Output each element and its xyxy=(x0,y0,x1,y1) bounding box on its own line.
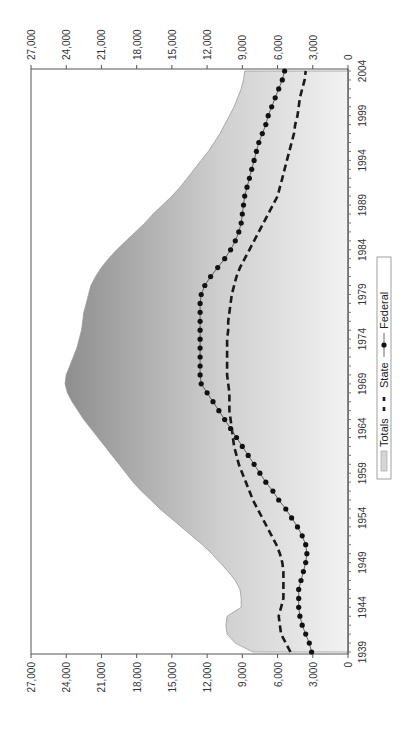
federal-marker xyxy=(273,95,278,100)
federal-marker xyxy=(240,444,245,449)
legend-totals-swatch xyxy=(381,451,387,471)
rotated-chart: 03,0006,0009,00012,00015,00018,00021,000… xyxy=(0,0,416,739)
federal-marker xyxy=(198,337,203,342)
value-tick-label-bottom: 3,000 xyxy=(308,662,319,687)
value-tick-label-bottom: 27,000 xyxy=(26,662,37,693)
federal-marker xyxy=(270,489,275,494)
value-tick-label-bottom: 0 xyxy=(343,662,354,668)
federal-marker xyxy=(300,533,305,538)
federal-marker xyxy=(249,167,254,172)
federal-marker xyxy=(199,292,204,297)
value-tick-label-top: 12,000 xyxy=(202,29,213,60)
federal-marker xyxy=(303,560,308,565)
federal-marker xyxy=(307,641,312,646)
federal-marker xyxy=(240,211,245,216)
federal-marker xyxy=(254,149,259,154)
year-tick-label: 1984 xyxy=(357,238,368,261)
year-axis: 1939194419491954195919641969197419791984… xyxy=(348,59,368,663)
federal-marker xyxy=(301,569,306,574)
federal-marker xyxy=(216,408,221,413)
federal-marker xyxy=(304,551,309,556)
value-tick-label-bottom: 6,000 xyxy=(273,662,284,687)
federal-marker xyxy=(233,238,238,243)
federal-marker xyxy=(198,301,203,306)
federal-marker xyxy=(241,203,246,208)
value-tick-label-top: 9,000 xyxy=(237,35,248,60)
year-tick-label: 1954 xyxy=(357,506,368,529)
value-tick-label-top: 3,000 xyxy=(308,35,319,60)
federal-marker xyxy=(263,122,268,127)
year-tick-label: 1964 xyxy=(357,417,368,440)
federal-marker xyxy=(280,77,285,82)
year-tick-label: 1994 xyxy=(357,149,368,172)
federal-marker xyxy=(198,372,203,377)
federal-marker xyxy=(266,113,271,118)
federal-marker xyxy=(252,462,257,467)
value-tick-label-top: 24,000 xyxy=(61,29,72,60)
federal-marker xyxy=(234,435,239,440)
federal-marker xyxy=(260,131,265,136)
value-tick-label-top: 15,000 xyxy=(167,29,178,60)
value-tick-label-top: 27,000 xyxy=(26,29,37,60)
year-tick-label: 1974 xyxy=(357,328,368,351)
year-tick-label: 1979 xyxy=(357,283,368,306)
federal-marker xyxy=(282,68,287,73)
value-tick-label-top: 6,000 xyxy=(273,35,284,60)
federal-marker xyxy=(263,480,268,485)
value-axis-right: 03,0006,0009,00012,00015,00018,00021,000… xyxy=(26,29,354,69)
federal-marker xyxy=(236,229,241,234)
federal-marker xyxy=(257,471,262,476)
federal-marker xyxy=(309,649,314,654)
federal-marker xyxy=(269,104,274,109)
year-tick-label: 1949 xyxy=(357,551,368,574)
value-axis-left: 03,0006,0009,00012,00015,00018,00021,000… xyxy=(26,654,354,693)
year-tick-label: 1939 xyxy=(357,640,368,663)
federal-marker xyxy=(283,506,288,511)
legend-federal-marker xyxy=(381,342,386,347)
federal-marker xyxy=(296,587,301,592)
value-tick-label-bottom: 12,000 xyxy=(202,662,213,693)
federal-marker xyxy=(215,265,220,270)
federal-marker xyxy=(303,632,308,637)
year-tick-label: 2004 xyxy=(357,59,368,82)
federal-marker xyxy=(198,354,203,359)
year-tick-label: 1999 xyxy=(357,104,368,127)
federal-marker xyxy=(247,176,252,181)
federal-marker xyxy=(296,605,301,610)
federal-marker xyxy=(300,623,305,628)
federal-marker xyxy=(199,381,204,386)
federal-marker xyxy=(298,578,303,583)
year-tick-label: 1969 xyxy=(357,372,368,395)
federal-marker xyxy=(205,390,210,395)
federal-marker xyxy=(239,220,244,225)
value-tick-label-top: 21,000 xyxy=(96,29,107,60)
legend: TotalsStateFederal xyxy=(377,257,391,479)
legend-label-totals: Totals xyxy=(378,418,390,447)
federal-marker xyxy=(296,596,301,601)
federal-marker xyxy=(198,310,203,315)
federal-marker xyxy=(228,426,233,431)
federal-marker xyxy=(276,86,281,91)
value-tick-label-top: 18,000 xyxy=(132,29,143,60)
federal-marker xyxy=(208,274,213,279)
year-tick-label: 1944 xyxy=(357,596,368,619)
federal-marker xyxy=(246,453,251,458)
year-tick-label: 1989 xyxy=(357,194,368,217)
federal-marker xyxy=(276,497,281,502)
federal-marker xyxy=(210,399,215,404)
year-tick-label: 1959 xyxy=(357,462,368,485)
federal-marker xyxy=(244,185,249,190)
value-tick-label-bottom: 18,000 xyxy=(132,662,143,693)
federal-marker xyxy=(252,158,257,163)
federal-marker xyxy=(228,247,233,252)
federal-marker xyxy=(222,256,227,261)
value-tick-label-bottom: 15,000 xyxy=(167,662,178,693)
federal-marker xyxy=(198,346,203,351)
value-tick-label-bottom: 24,000 xyxy=(61,662,72,693)
value-tick-label-top: 0 xyxy=(343,54,354,60)
value-tick-label-bottom: 9,000 xyxy=(237,662,248,687)
federal-marker xyxy=(222,417,227,422)
federal-marker xyxy=(198,328,203,333)
federal-marker xyxy=(198,319,203,324)
federal-marker xyxy=(202,283,207,288)
